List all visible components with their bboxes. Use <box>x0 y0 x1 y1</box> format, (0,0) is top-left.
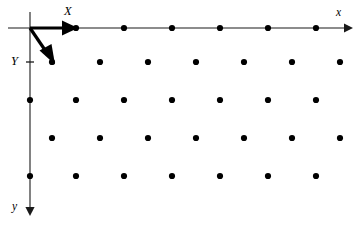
lattice-point <box>193 59 199 65</box>
lattice-point <box>169 173 175 179</box>
lattice-point <box>313 173 319 179</box>
x-axis-label: x <box>336 7 341 19</box>
vector-X-label: X <box>64 5 72 18</box>
lattice-point <box>145 135 151 141</box>
y-axis-arrow-icon <box>25 207 34 216</box>
lattice-point <box>97 135 103 141</box>
lattice-point <box>217 173 223 179</box>
lattice-point <box>265 97 271 103</box>
lattice-point <box>73 25 79 31</box>
lattice-point <box>49 59 55 65</box>
lattice-figure: X Y x y <box>0 0 360 228</box>
lattice-point <box>265 173 271 179</box>
lattice-point <box>337 59 343 65</box>
lattice-point <box>49 135 55 141</box>
vector-Y-label: Y <box>11 55 18 68</box>
lattice-point <box>289 135 295 141</box>
lattice-point <box>313 25 319 31</box>
lattice-point <box>265 25 271 31</box>
lattice-point <box>97 59 103 65</box>
lattice-point <box>27 97 33 103</box>
lattice-point <box>27 173 33 179</box>
lattice-point <box>217 97 223 103</box>
lattice-point <box>289 59 295 65</box>
lattice-diagram-canvas <box>0 0 360 228</box>
lattice-point <box>337 135 343 141</box>
lattice-point <box>145 59 151 65</box>
lattice-point <box>121 25 127 31</box>
lattice-point <box>241 135 247 141</box>
lattice-point <box>313 97 319 103</box>
lattice-point <box>241 59 247 65</box>
x-axis-arrow-icon <box>344 23 353 32</box>
lattice-point <box>73 173 79 179</box>
y-axis <box>25 12 34 216</box>
lattice-point <box>121 173 127 179</box>
y-axis-label: y <box>12 201 17 213</box>
lattice-point <box>73 97 79 103</box>
lattice-point <box>169 25 175 31</box>
lattice-point-group <box>27 25 343 179</box>
lattice-point <box>169 97 175 103</box>
lattice-point <box>193 135 199 141</box>
basis-vector-X <box>30 21 78 36</box>
lattice-point <box>121 97 127 103</box>
lattice-point <box>217 25 223 31</box>
